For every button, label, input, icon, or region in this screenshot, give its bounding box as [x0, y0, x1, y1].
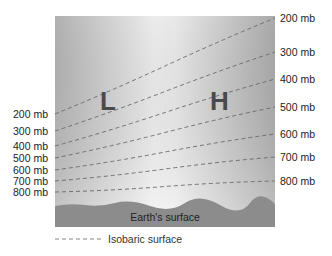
left-isobar-label: 500 mb	[13, 152, 48, 164]
right-isobar-label: 800 mb	[280, 175, 315, 187]
left-isobar-label: 300 mb	[13, 125, 48, 137]
right-isobar-label: 200 mb	[280, 12, 315, 24]
legend-label: Isobaric surface	[108, 233, 182, 245]
right-isobar-label: 700 mb	[280, 151, 315, 163]
low-pressure-marker: L	[100, 88, 116, 114]
right-isobar-label: 300 mb	[280, 46, 315, 58]
left-isobar-label: 400 mb	[13, 140, 48, 152]
right-isobar-label: 600 mb	[280, 128, 315, 140]
right-isobar-label: 500 mb	[280, 101, 315, 113]
earth-surface-label: Earth's surface	[55, 211, 275, 223]
right-isobar-label: 400 mb	[280, 73, 315, 85]
left-isobar-label: 800 mb	[13, 186, 48, 198]
left-isobar-label: 200 mb	[13, 108, 48, 120]
high-pressure-marker: H	[210, 88, 229, 114]
isobar-diagram: 200 mb300 mb400 mb500 mb600 mb700 mb800 …	[0, 0, 332, 256]
